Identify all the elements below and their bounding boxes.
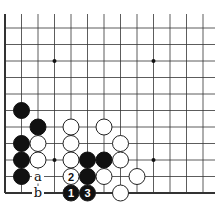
white-stone: [63, 119, 79, 135]
white-stone: [113, 136, 129, 152]
point-label: b: [34, 185, 42, 200]
black-stone: [96, 152, 112, 168]
white-stone: [129, 169, 145, 185]
black-stone: [80, 169, 96, 185]
move-number: 3: [84, 187, 90, 199]
black-stone: [14, 152, 30, 168]
white-stone: [63, 136, 79, 152]
black-stone: [80, 152, 96, 168]
black-stone: [14, 136, 30, 152]
move-number: 1: [68, 187, 74, 199]
star-point: [152, 59, 156, 63]
star-point: [152, 158, 156, 162]
point-label: a: [34, 169, 42, 184]
black-stone: [14, 103, 30, 119]
black-stone: [14, 169, 30, 185]
white-stone: [96, 119, 112, 135]
black-stone: [30, 119, 46, 135]
white-stone: [30, 152, 46, 168]
white-stone: [63, 152, 79, 168]
star-point: [53, 158, 57, 162]
white-stone: [96, 169, 112, 185]
white-stone: [30, 136, 46, 152]
white-stone: [113, 185, 129, 201]
move-number: 2: [68, 171, 74, 183]
board-svg: ab123: [0, 0, 220, 208]
star-point: [53, 59, 57, 63]
go-board-diagram: ab123: [0, 0, 220, 208]
white-stone: [113, 152, 129, 168]
